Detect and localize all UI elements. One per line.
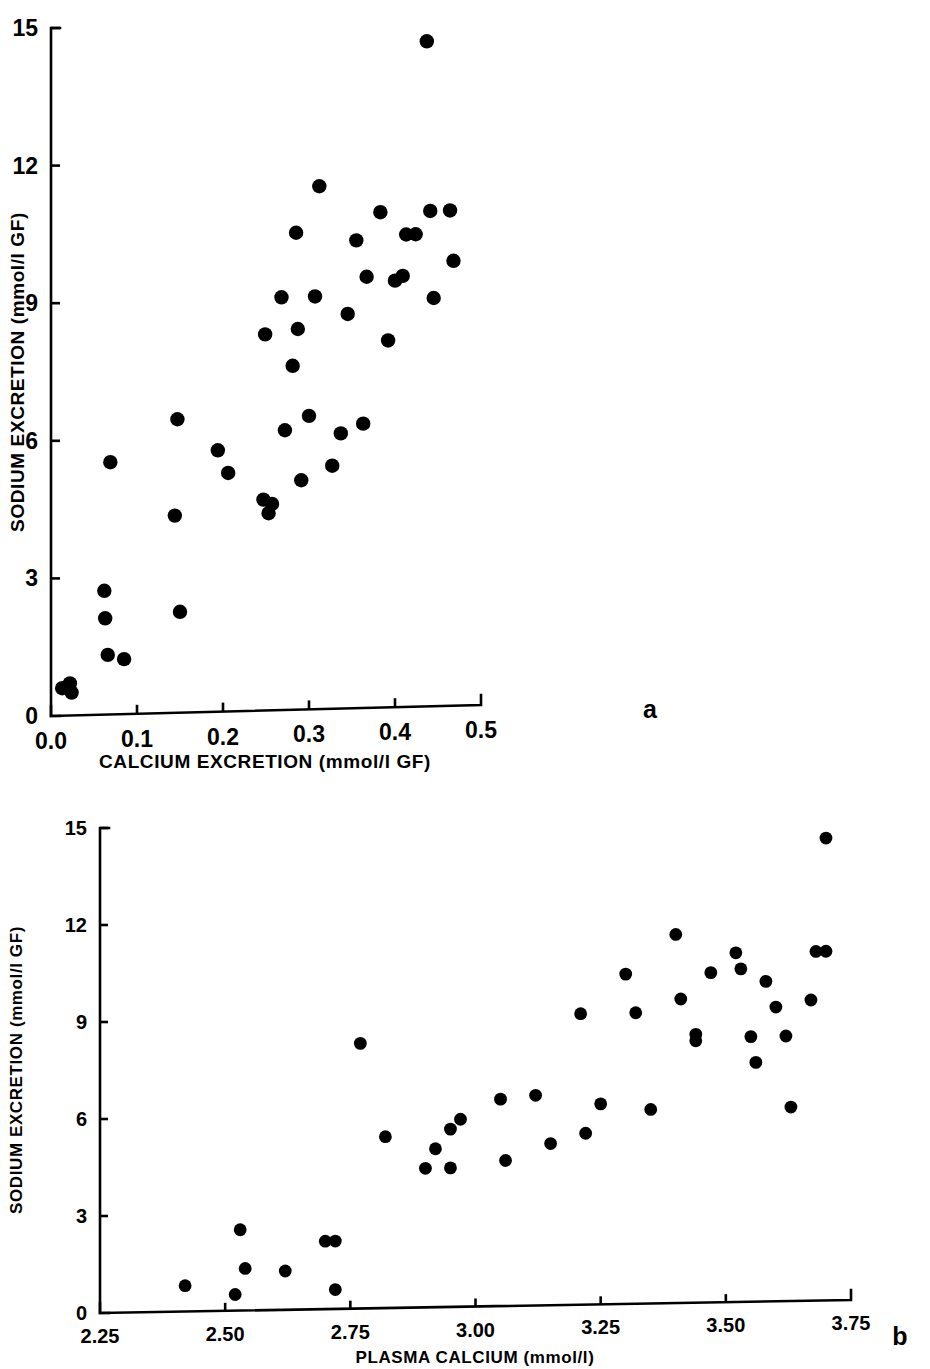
y-axis-title: SODIUM EXCRETION (mmol/l GF)	[7, 926, 26, 1214]
data-point	[117, 652, 131, 666]
data-point	[279, 1265, 292, 1278]
data-point	[454, 1113, 467, 1126]
panel-b-canvas: 036912152.252.502.753.003.253.503.75PLAS…	[0, 800, 930, 1369]
x-tick-label: 2.25	[81, 1325, 120, 1347]
y-tick-label: 15	[12, 15, 38, 41]
data-point	[278, 423, 292, 437]
data-point	[396, 269, 410, 283]
data-point	[574, 1007, 587, 1020]
data-point	[499, 1154, 512, 1167]
data-point	[579, 1127, 592, 1140]
data-point	[669, 928, 682, 941]
x-axis-title: PLASMA CALCIUM (mmol/l)	[356, 1348, 595, 1367]
x-tick-label: 3.00	[456, 1319, 495, 1341]
data-point	[494, 1093, 507, 1106]
data-point	[265, 497, 279, 511]
data-point	[359, 270, 373, 284]
data-point	[785, 1101, 798, 1114]
data-point	[429, 1142, 442, 1155]
data-point	[341, 307, 355, 321]
data-point	[759, 975, 772, 988]
data-point	[258, 327, 272, 341]
y-tick-label: 12	[12, 153, 38, 179]
scatter-panel-a: 036912150.00.10.20.30.40.5CALCIUM EXCRET…	[0, 0, 930, 800]
data-point	[749, 1056, 762, 1069]
y-tick-label: 0	[76, 1302, 87, 1324]
y-axis-line	[100, 828, 109, 1313]
data-point	[274, 290, 288, 304]
data-point	[168, 508, 182, 522]
x-tick-label: 3.75	[832, 1312, 871, 1334]
panel-letter-a: a	[643, 695, 658, 723]
data-point	[820, 832, 833, 845]
data-point	[408, 227, 422, 241]
x-axis-line	[51, 695, 481, 716]
data-point	[373, 205, 387, 219]
data-point	[239, 1262, 252, 1275]
y-tick-label: 3	[76, 1205, 87, 1227]
data-point	[629, 1006, 642, 1019]
x-tick-label: 0.3	[293, 721, 325, 747]
data-point	[734, 962, 747, 975]
data-point	[544, 1137, 557, 1150]
data-point	[97, 584, 111, 598]
x-tick-label: 2.50	[206, 1323, 245, 1345]
data-point	[308, 289, 322, 303]
data-point	[329, 1235, 342, 1248]
y-tick-label: 12	[65, 914, 87, 936]
data-point	[444, 1162, 457, 1175]
x-tick-label: 0.1	[121, 726, 153, 752]
data-point	[312, 179, 326, 193]
panel-letter-b: b	[892, 1322, 907, 1350]
data-point	[427, 291, 441, 305]
y-axis-title: SODIUM EXCRETION (mmol/l GF)	[7, 212, 28, 532]
data-point	[302, 409, 316, 423]
data-point	[674, 993, 687, 1006]
data-point	[780, 1030, 793, 1043]
data-point	[291, 322, 305, 336]
data-point	[98, 611, 112, 625]
y-tick-label: 3	[25, 565, 38, 591]
data-point	[173, 605, 187, 619]
data-point	[529, 1089, 542, 1102]
data-point	[419, 1162, 432, 1175]
data-point	[379, 1130, 392, 1143]
x-tick-label: 0.0	[35, 728, 67, 754]
data-point	[289, 226, 303, 240]
y-tick-label: 6	[76, 1108, 87, 1130]
data-point	[356, 416, 370, 430]
data-point	[354, 1037, 367, 1050]
scatter-panel-b: 036912152.252.502.753.003.253.503.75PLAS…	[0, 800, 930, 1369]
x-tick-label: 3.50	[706, 1314, 745, 1336]
y-tick-label: 0	[25, 703, 38, 729]
data-point	[420, 34, 434, 48]
data-point	[179, 1279, 192, 1292]
data-point	[805, 994, 818, 1007]
data-point	[446, 254, 460, 268]
x-tick-label: 2.75	[331, 1321, 370, 1343]
data-point	[423, 204, 437, 218]
x-tick-label: 0.4	[379, 719, 411, 745]
y-tick-label: 9	[76, 1011, 87, 1033]
data-point	[594, 1097, 607, 1110]
data-point	[644, 1103, 657, 1116]
x-axis-title: CALCIUM EXCRETION (mmol/l GF)	[99, 751, 431, 772]
data-point	[294, 473, 308, 487]
y-axis-line	[51, 28, 60, 716]
data-point	[689, 1034, 702, 1047]
data-point	[444, 1123, 457, 1136]
data-point	[325, 459, 339, 473]
data-point	[329, 1283, 342, 1296]
data-point	[103, 455, 117, 469]
x-tick-label: 3.25	[581, 1316, 620, 1338]
x-tick-label: 0.2	[207, 724, 239, 750]
data-point	[729, 946, 742, 959]
data-point	[334, 426, 348, 440]
figure-root: 036912150.00.10.20.30.40.5CALCIUM EXCRET…	[0, 0, 930, 1369]
data-point	[704, 966, 717, 979]
data-point	[64, 685, 78, 699]
data-point	[285, 359, 299, 373]
data-point	[381, 333, 395, 347]
y-tick-label: 15	[65, 817, 87, 839]
data-point	[443, 203, 457, 217]
